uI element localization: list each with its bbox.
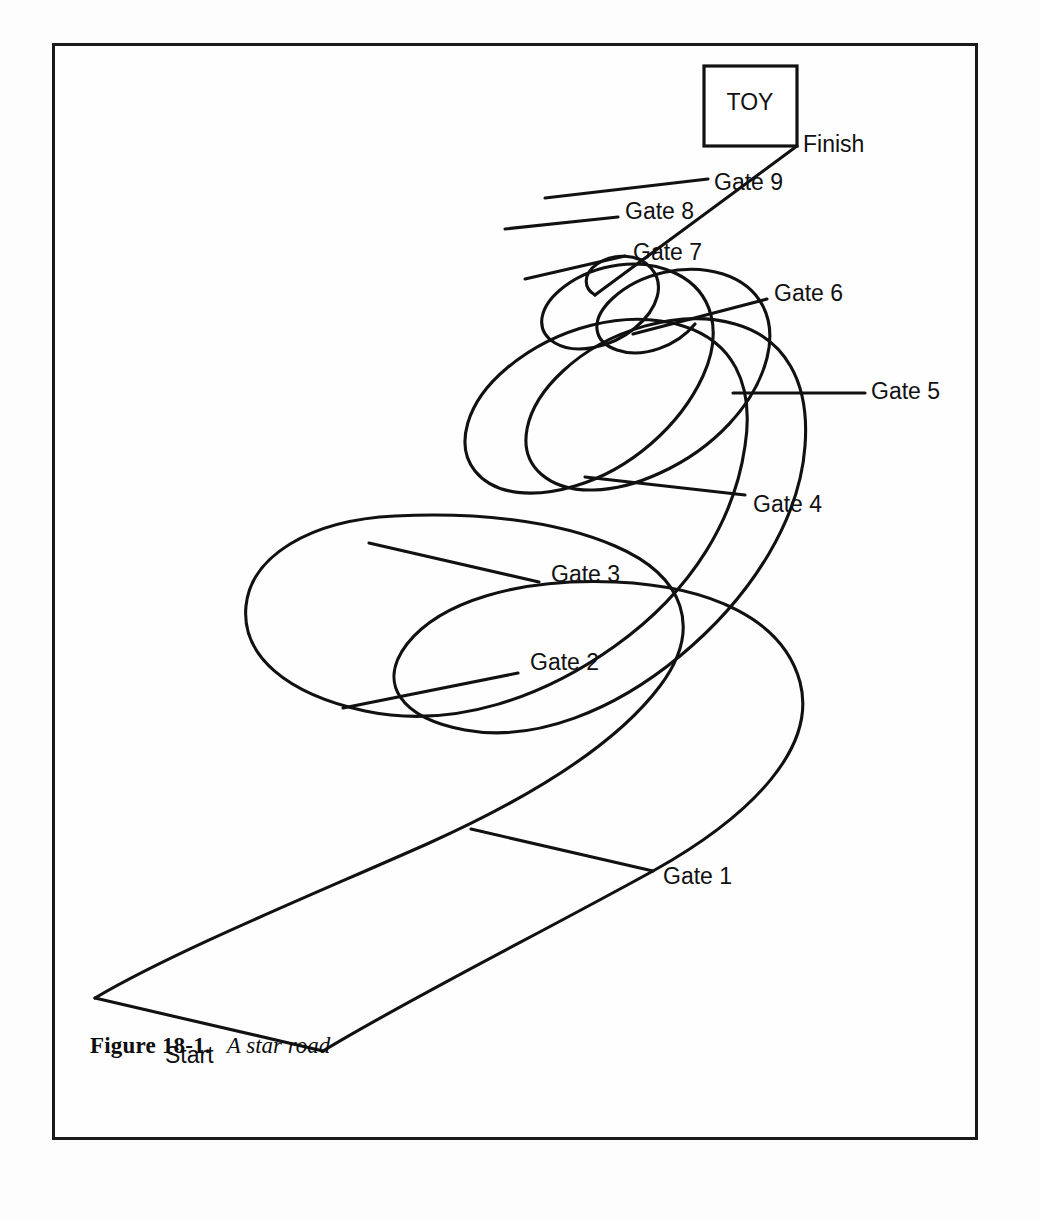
toy-box-label: TOY [727, 89, 774, 115]
gate-1-label: Gate 1 [663, 863, 732, 889]
star-road-diagram: Gate 1 Gate 2 Gate 3 Gate 4 Gate 5 Gate … [55, 46, 981, 1143]
gate-9-line [545, 179, 708, 198]
figure-caption: Figure 18-1.A star road [90, 1033, 330, 1059]
gate-3-line [369, 543, 539, 582]
gate-2-label: Gate 2 [530, 649, 599, 675]
gate-4-line [585, 477, 745, 495]
figure-frame-border: Gate 1 Gate 2 Gate 3 Gate 4 Gate 5 Gate … [52, 43, 978, 1140]
gate-4-label: Gate 4 [753, 491, 822, 517]
gate-6-label: Gate 6 [774, 280, 843, 306]
gate-8-label: Gate 8 [625, 198, 694, 224]
road-outer-edge [95, 256, 747, 998]
finish-label: Finish [803, 131, 864, 157]
figure-caption-title: A star road [227, 1033, 331, 1058]
gate-2-line [343, 673, 518, 708]
figure-caption-number: Figure 18-1. [90, 1033, 211, 1058]
figure-page: Gate 1 Gate 2 Gate 3 Gate 4 Gate 5 Gate … [0, 0, 1041, 1222]
gate-8-line [505, 217, 618, 229]
gate-1-line [471, 829, 653, 871]
gate-3-label: Gate 3 [551, 561, 620, 587]
gate-5-label: Gate 5 [871, 378, 940, 404]
